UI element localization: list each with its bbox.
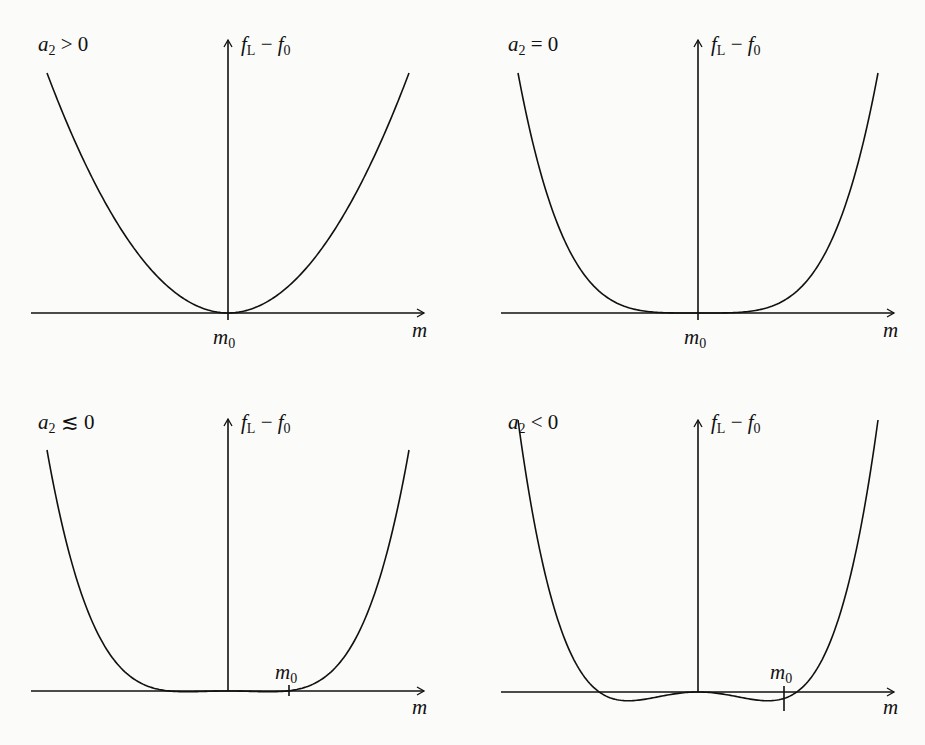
x-axis-label: m [412, 697, 427, 718]
condition-label: a2 ≲ 0 [38, 412, 95, 436]
panel-a2-zero-axes [501, 40, 894, 320]
panel-a2-negative-axes [501, 420, 894, 711]
y-axis-label: fL − f0 [241, 34, 291, 58]
landau-free-energy-diagram [0, 0, 925, 745]
x-axis-label: m [883, 697, 898, 718]
condition-label: a2 < 0 [508, 412, 558, 436]
x-axis-label: m [883, 320, 898, 341]
panel-a2-positive-axes [31, 40, 424, 320]
panel-a2-slightly-negative-axes [31, 419, 424, 696]
x-axis-label: m [412, 320, 427, 341]
condition-label: a2 = 0 [508, 34, 558, 58]
condition-label: a2 > 0 [38, 34, 88, 58]
m0-label: m0 [275, 662, 297, 686]
y-axis-label: fL − f0 [241, 412, 291, 436]
m0-label: m0 [770, 662, 792, 686]
y-axis-label: fL − f0 [711, 412, 761, 436]
m0-label: m0 [213, 327, 235, 351]
y-axis-label: fL − f0 [711, 34, 761, 58]
m0-label: m0 [684, 327, 706, 351]
